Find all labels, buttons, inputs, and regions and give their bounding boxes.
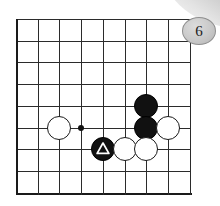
move-number-badge-label: 6 [195,24,203,39]
go-diagram-root: 6 [0,0,220,206]
move-number-badge: 6 [182,17,216,45]
grid-line-vertical-2 [59,19,60,195]
triangle-marker-icon [92,138,114,160]
grid-line-vertical-4 [103,19,104,195]
grid-line-horizontal-8 [16,193,192,195]
grid-line-vertical-8 [190,19,191,195]
grid-line-vertical-0 [16,19,18,195]
grid-line-vertical-1 [38,19,39,195]
white-stone-c6r6[interactable] [134,137,158,161]
grid-line-vertical-5 [125,19,126,195]
black-stone-c6r4[interactable] [134,94,158,118]
grid-line-vertical-3 [81,19,82,195]
grid-line-vertical-7 [168,19,169,195]
white-stone-c7r5[interactable] [156,116,180,140]
white-stone-c2r5[interactable] [47,116,71,140]
hoshi-center-left-star-point [78,125,84,131]
black-stone-c4r6-triangle[interactable] [91,137,115,161]
